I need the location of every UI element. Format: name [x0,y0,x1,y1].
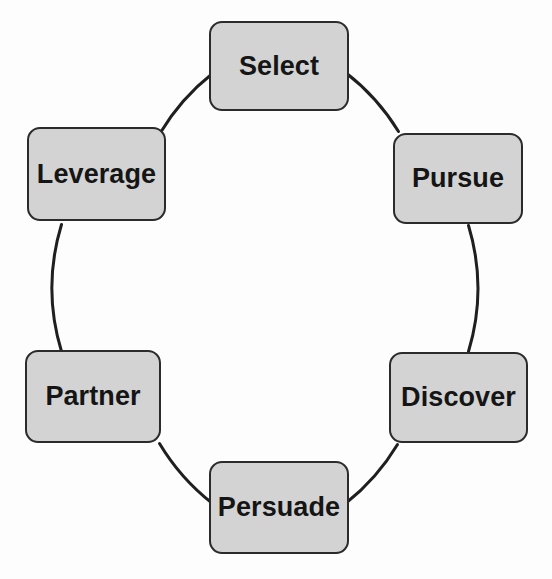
connector-partner-leverage [52,225,61,352]
node-label-discover: Discover [401,384,516,411]
node-leverage[interactable]: Leverage [27,127,166,221]
node-partner[interactable]: Partner [25,350,161,443]
node-pursue[interactable]: Pursue [393,133,523,224]
node-label-pursue: Pursue [412,165,504,192]
node-label-partner: Partner [45,383,140,410]
connector-pursue-discover [469,226,478,352]
cycle-diagram: Select Pursue Discover Persuade Partner … [0,0,552,579]
node-label-persuade: Persuade [218,494,340,521]
connector-leverage-select [161,74,213,133]
connector-persuade-partner [160,444,213,504]
node-persuade[interactable]: Persuade [209,461,349,554]
node-discover[interactable]: Discover [389,352,528,443]
node-label-select: Select [239,53,319,80]
connector-discover-persuade [346,445,398,504]
node-select[interactable]: Select [209,21,349,111]
node-label-leverage: Leverage [37,161,156,188]
connector-select-pursue [346,73,399,132]
